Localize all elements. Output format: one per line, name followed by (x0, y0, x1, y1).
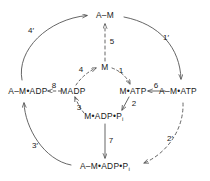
arrow-1-prime (124, 17, 181, 79)
step-label-6: 6 (154, 82, 158, 90)
node-a-m-adp: A–M•ADP (8, 87, 47, 95)
step-label-2: 2 (132, 100, 136, 108)
node-a-m-adp-pi-sub: i (128, 165, 130, 171)
node-m-adp-pi: M•ADP•Pi (84, 112, 123, 120)
node-a-m-adp-pi-text: A–M•ADP•P (80, 161, 129, 171)
node-madp: MADP (60, 87, 85, 95)
step-label-3: 3 (77, 104, 81, 112)
node-a-m-adp-pi: A–M•ADP•Pi (80, 162, 130, 170)
diagram-canvas: A–M M M•ATP A–M•ATP M•ADP•Pi MADP A–M•AD… (0, 0, 210, 181)
step-label-1-prime: 1′ (163, 34, 169, 42)
step-label-7: 7 (109, 137, 113, 145)
step-label-5: 5 (110, 38, 114, 46)
step-label-8: 8 (52, 82, 56, 90)
node-m-adp-pi-text: M•ADP•P (84, 111, 122, 121)
arrow-2 (122, 97, 129, 110)
node-m-atp: M•ATP (119, 87, 146, 95)
arrow-2-prime (144, 103, 183, 163)
step-label-1: 1 (119, 67, 123, 75)
step-label-2-prime: 2′ (167, 135, 173, 143)
node-a-m-atp: A–M•ATP (159, 87, 197, 95)
step-label-3-prime: 3′ (32, 142, 38, 150)
step-label-4: 4 (79, 66, 83, 74)
arrow-3-prime (24, 103, 71, 165)
node-a-m: A–M (96, 11, 114, 19)
step-label-4-prime: 4′ (28, 27, 34, 35)
node-m: M (101, 63, 108, 71)
